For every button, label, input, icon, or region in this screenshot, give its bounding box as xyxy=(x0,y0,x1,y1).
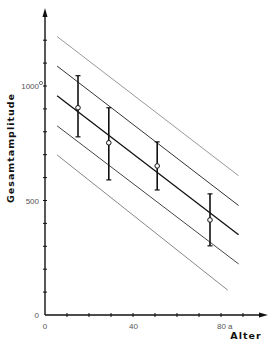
degree-mark-icon xyxy=(39,81,42,84)
data-point-marker xyxy=(107,140,112,145)
line-+2s xyxy=(57,37,239,176)
y-axis-arrow-icon xyxy=(43,8,48,17)
data-point-marker xyxy=(76,105,81,110)
y-axis-title: Gesamtamplitude xyxy=(5,93,16,203)
x-tick-label: 40 xyxy=(129,322,138,331)
line--1s xyxy=(57,126,239,264)
axes xyxy=(43,8,269,318)
x-axis-title: Alter xyxy=(230,330,261,341)
data-point-marker xyxy=(208,218,213,223)
line-mean xyxy=(57,96,239,235)
regression-lines xyxy=(57,37,239,291)
error-bars xyxy=(76,76,213,246)
data-point-marker xyxy=(155,164,160,169)
x-ticks: 04080 a xyxy=(43,313,243,331)
y-ticks: 05001000 xyxy=(21,40,47,320)
y-tick-label: 500 xyxy=(26,197,40,206)
y-tick-label: 0 xyxy=(35,311,40,320)
line-+1s xyxy=(57,66,239,205)
x-tick-label: 0 xyxy=(43,322,48,331)
chart-canvas: 05001000 04080 a Gesamtamplitude Alter xyxy=(0,0,278,349)
x-axis-arrow-icon xyxy=(259,313,268,318)
line--2s xyxy=(57,155,228,290)
y-tick-label: 1000 xyxy=(21,82,39,91)
